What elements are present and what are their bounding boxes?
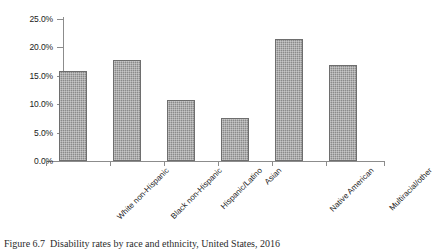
plot-area <box>63 19 384 161</box>
y-axis-tick-label: 25.0% <box>7 15 53 24</box>
x-axis-category-label-5: Multiracial/other <box>388 166 434 212</box>
x-axis-category-label-4: Native American <box>328 166 376 214</box>
x-axis-tick <box>272 161 273 166</box>
x-axis-category-label-3: Asian <box>263 166 284 187</box>
bar-black-non-hispanic[interactable] <box>113 60 141 161</box>
bar-multiracial-other[interactable] <box>329 65 357 161</box>
y-axis-tick-label: 10.0% <box>7 100 53 109</box>
x-axis-tick <box>326 161 327 166</box>
x-axis-tick <box>218 161 219 166</box>
y-axis-tick-label: 5.0% <box>7 129 53 138</box>
bar-white-non-hispanic[interactable] <box>59 71 87 161</box>
x-axis-tick <box>384 161 385 166</box>
x-axis-line <box>46 161 385 162</box>
bar-hispanic-latino[interactable] <box>167 100 195 161</box>
figure-caption-text: Disability rates by race and ethnicity, … <box>50 238 280 249</box>
x-axis-tick <box>110 161 111 166</box>
x-axis-tick <box>46 161 47 166</box>
figure-number: Figure 6.7 <box>4 238 45 249</box>
y-axis-tick-label: 20.0% <box>7 43 53 52</box>
y-axis-tick <box>57 161 63 162</box>
x-axis-category-label-0: White non-Hispanic <box>115 166 170 221</box>
bar-asian[interactable] <box>221 118 249 161</box>
bar-native-american[interactable] <box>275 39 303 161</box>
x-axis-category-label-1: Black non-Hispanic <box>169 166 224 221</box>
y-axis-tick-label: 15.0% <box>7 72 53 81</box>
figure-caption: Figure 6.7 Disability rates by race and … <box>4 238 396 250</box>
x-axis-category-label-2: Hispanic/Latino <box>219 166 264 211</box>
